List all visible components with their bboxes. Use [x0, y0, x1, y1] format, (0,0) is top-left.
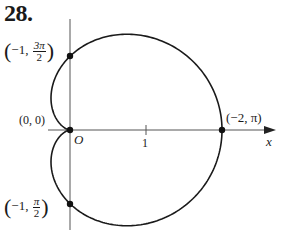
x-axis-arrow-icon — [264, 126, 276, 134]
label-x-axis: x — [266, 134, 272, 150]
label-tick-1: 1 — [142, 136, 148, 151]
label-right-point: (−2, π) — [226, 110, 262, 126]
point-bottom — [67, 201, 73, 207]
label-origin-name: O — [74, 132, 83, 148]
label-bottom-point: (−1, π2) — [4, 194, 49, 220]
point-right — [219, 127, 225, 133]
label-origin-coord: (0, 0) — [19, 113, 45, 128]
label-top-point: (−1, 3π2) — [4, 38, 54, 64]
point-top — [67, 53, 73, 59]
point-origin — [67, 127, 73, 133]
